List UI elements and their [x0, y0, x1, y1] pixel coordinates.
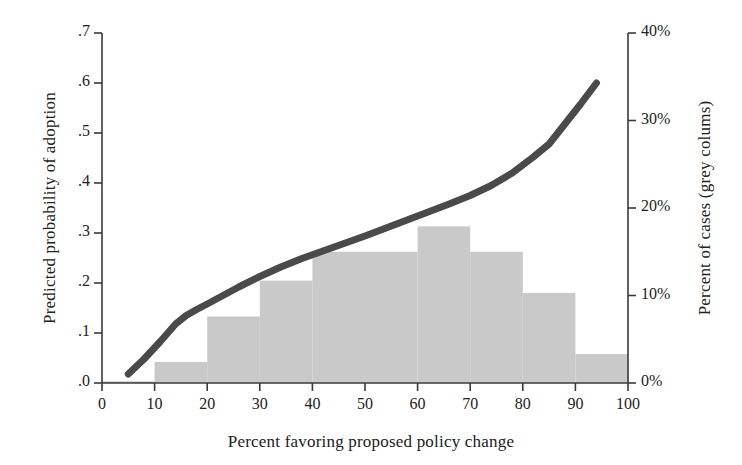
histogram-bar — [575, 354, 628, 383]
histogram-bars — [102, 226, 628, 383]
x-axis-title: Percent favoring proposed policy change — [0, 432, 742, 452]
x-axis-tick-label: 50 — [340, 395, 390, 413]
histogram-bar — [523, 293, 576, 383]
histogram-bar — [260, 281, 313, 383]
x-axis-tick-label: 10 — [130, 395, 180, 413]
y-axis-title-left: Predicted probability of adoption — [40, 28, 60, 388]
x-axis-tick-label: 80 — [498, 395, 548, 413]
x-axis-tick-label: 60 — [393, 395, 443, 413]
x-axis-tick-label: 90 — [550, 395, 600, 413]
y-axis-tick-label-right: 20% — [641, 197, 691, 215]
x-axis-tick-label: 70 — [445, 395, 495, 413]
histogram-bar — [312, 252, 365, 383]
y-axis-title-right: Percent of cases (grey colums) — [695, 28, 715, 388]
x-axis-tick-label: 0 — [77, 395, 127, 413]
histogram-bar — [155, 362, 208, 383]
y-axis-tick-label-right: 10% — [641, 285, 691, 303]
chart-figure: .0.1.2.3.4.5.6.70%10%20%30%40%0102030405… — [0, 0, 742, 465]
y-axis-tick-label-right: 40% — [641, 22, 691, 40]
x-axis-tick-label: 100 — [603, 395, 653, 413]
x-axis-tick-label: 20 — [182, 395, 232, 413]
histogram-bar — [365, 252, 418, 383]
y-axis-tick-label-right: 0% — [641, 372, 691, 390]
histogram-bar — [470, 252, 523, 383]
histogram-bar — [418, 226, 471, 383]
x-axis-tick-label: 40 — [287, 395, 337, 413]
x-axis-tick-label: 30 — [235, 395, 285, 413]
histogram-bar — [207, 317, 260, 384]
y-axis-tick-label-right: 30% — [641, 110, 691, 128]
